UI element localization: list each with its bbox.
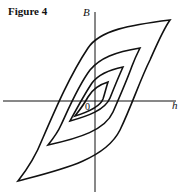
hysteresis-diagram xyxy=(0,0,179,192)
